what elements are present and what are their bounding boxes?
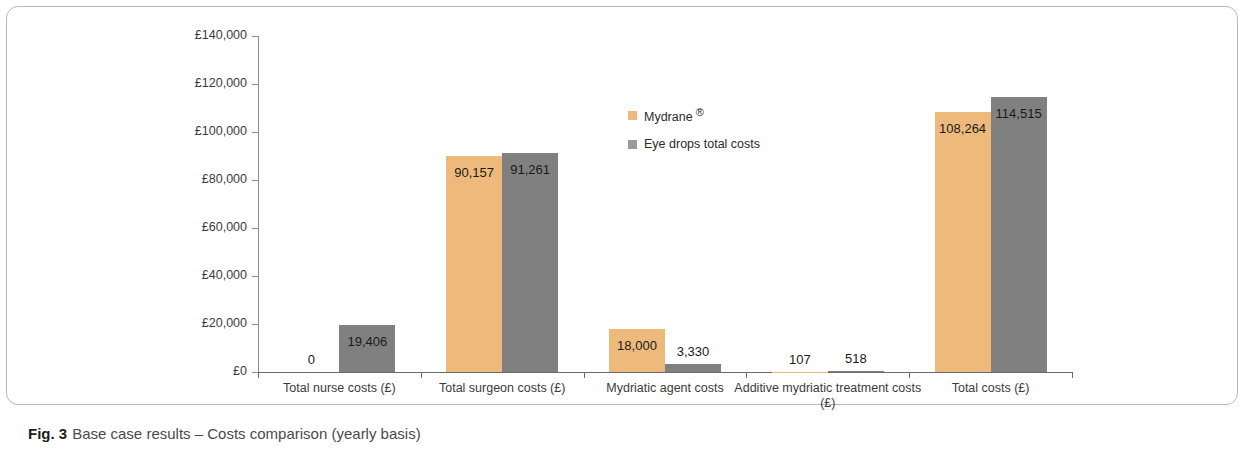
- plot-area: 019,40690,15791,26118,0003,330107518108,…: [258, 36, 1072, 372]
- figure-root: £0£20,000£40,000£60,000£80,000£100,000£1…: [0, 0, 1249, 456]
- bar: [935, 112, 991, 372]
- x-axis-line: [258, 372, 1072, 373]
- chart-legend: Mydrane ®Eye drops total costs: [628, 105, 760, 163]
- bar-value-label: 114,515: [991, 106, 1047, 121]
- figure-caption: Fig. 3Base case results – Costs comparis…: [28, 425, 421, 442]
- bar: [665, 364, 721, 372]
- y-axis-tick-label: £60,000: [150, 220, 247, 234]
- legend-swatch-eye-drops: [628, 140, 637, 149]
- bar: [828, 371, 884, 372]
- figure-caption-text: Base case results – Costs comparison (ye…: [72, 425, 420, 442]
- x-axis-category-label: Total nurse costs (£): [254, 381, 424, 396]
- bar-value-label: 107: [772, 352, 828, 367]
- legend-item: Eye drops total costs: [628, 134, 760, 154]
- x-axis-tick: [909, 372, 910, 378]
- x-axis-category-label: Additive mydriatic treatment costs (£): [733, 381, 923, 411]
- bar-value-label: 518: [828, 351, 884, 366]
- y-axis-tick-label: £100,000: [150, 124, 247, 138]
- y-axis-tick-label: £0: [150, 364, 247, 378]
- x-axis-tick: [421, 372, 422, 378]
- x-axis-category-label: Total surgeon costs (£): [412, 381, 592, 396]
- bar-value-label: 90,157: [446, 165, 502, 180]
- registered-trademark-icon: ®: [693, 106, 704, 118]
- bar-value-label: 0: [283, 352, 339, 367]
- bar-value-label: 3,330: [665, 344, 721, 359]
- x-axis-category-label: Mydriatic agent costs: [585, 381, 745, 396]
- x-axis-tick: [746, 372, 747, 378]
- legend-item: Mydrane ®: [628, 105, 760, 125]
- y-axis-tick-label: £80,000: [150, 172, 247, 186]
- legend-item-label: Mydrane ®: [644, 106, 704, 124]
- bar: [991, 97, 1047, 372]
- x-axis-tick: [584, 372, 585, 378]
- bar: [446, 156, 502, 372]
- bar-value-label: 19,406: [339, 334, 395, 349]
- y-axis-tick-label: £40,000: [150, 268, 247, 282]
- bar-value-label: 91,261: [502, 162, 558, 177]
- x-axis-tick: [258, 372, 259, 378]
- figure-number: Fig. 3: [28, 425, 67, 442]
- legend-swatch-mydrane: [628, 111, 637, 120]
- bar-value-label: 108,264: [935, 121, 991, 136]
- y-axis-tick-label: £20,000: [150, 316, 247, 330]
- y-axis-tick-label: £140,000: [150, 28, 247, 42]
- x-axis-category-label: Total costs (£): [911, 381, 1071, 396]
- bar-value-label: 18,000: [609, 338, 665, 353]
- legend-item-label: Eye drops total costs: [644, 137, 760, 151]
- x-axis-tick: [1072, 372, 1073, 378]
- bar: [502, 153, 558, 372]
- y-axis-tick-label: £120,000: [150, 76, 247, 90]
